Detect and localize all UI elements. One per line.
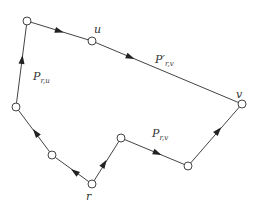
label-p-prime-sub: r,v (165, 60, 174, 68)
edge-u-to-v (92, 41, 242, 104)
labels: u v r Pr,u P′r,v Pr,v (32, 23, 243, 203)
node-bottom (184, 162, 192, 170)
node-u (88, 37, 96, 45)
label-p-rv-sub: r,v (159, 134, 168, 142)
edge-r-to-up (92, 138, 121, 184)
edge-bot-to-v (188, 104, 242, 166)
label-p-ru: Pr,u (32, 70, 50, 85)
path-diagram: u v r Pr,u P′r,v Pr,v (0, 0, 260, 205)
node-mid-left (48, 151, 56, 159)
label-r: r (86, 190, 92, 203)
node-v (238, 100, 246, 108)
arrow-icon (125, 53, 136, 62)
label-p-prime-main: P′ (154, 53, 165, 66)
arrow-icon (152, 149, 163, 158)
edges (16, 21, 242, 184)
label-p-prime-rv: P′r,v (154, 53, 174, 68)
arrow-icon (54, 27, 64, 35)
label-u: u (94, 23, 101, 36)
edge-left-to-topleft (16, 21, 27, 107)
label-p-rv: Pr,v (151, 127, 168, 142)
node-r (88, 180, 96, 188)
node-after-r (117, 134, 125, 142)
label-v: v (236, 88, 243, 101)
node-top-left (23, 17, 31, 25)
nodes (12, 17, 246, 188)
label-p-ru-sub: r,u (40, 77, 50, 85)
node-left (12, 103, 20, 111)
